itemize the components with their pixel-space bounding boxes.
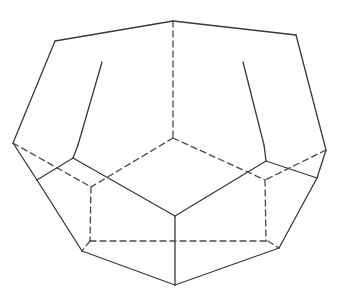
visible-edge: [266, 161, 317, 178]
hidden-edge: [90, 187, 91, 241]
hidden-edge: [265, 180, 266, 241]
polyhedron-figure: [0, 0, 342, 291]
hidden-edge: [173, 138, 265, 180]
visible-edge: [296, 35, 326, 150]
hidden-edge: [265, 150, 326, 180]
visible-edge: [37, 180, 82, 251]
visible-edge: [78, 62, 102, 145]
visible-edge: [175, 161, 266, 216]
visible-edge: [243, 62, 264, 145]
visible-edge: [175, 248, 279, 285]
polyhedron-svg: [0, 0, 342, 291]
visible-edge: [73, 145, 78, 158]
visible-edge: [82, 251, 175, 285]
hidden-edge: [82, 241, 90, 251]
visible-edge: [317, 150, 326, 178]
visible-edge: [55, 21, 173, 41]
visible-edge: [37, 158, 73, 180]
visible-edge: [13, 41, 55, 143]
hidden-edge: [13, 143, 91, 187]
visible-edge: [13, 143, 37, 180]
hidden-edge: [91, 138, 173, 187]
visible-edge: [73, 158, 175, 216]
visible-edge: [279, 178, 317, 248]
visible-edge: [264, 145, 266, 161]
hidden-edge: [268, 241, 279, 248]
visible-edge: [173, 21, 296, 35]
visible-edges: [13, 21, 326, 285]
